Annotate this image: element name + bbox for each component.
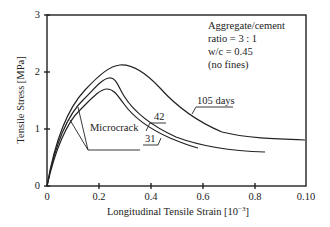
stress-strain-chart: 0 1 2 3 0 0.2 0.4 0.6 0.8 0.10 Tensile S… bbox=[0, 0, 330, 227]
svg-text:3: 3 bbox=[35, 9, 40, 20]
svg-text:(no fines): (no fines) bbox=[208, 59, 249, 71]
svg-text:0.6: 0.6 bbox=[196, 191, 209, 202]
svg-text:1: 1 bbox=[35, 123, 40, 134]
svg-text:0.2: 0.2 bbox=[92, 191, 105, 202]
curve-105-label: 105 days bbox=[197, 95, 235, 106]
x-axis-title: Longitudinal Tensile Strain [10−3] bbox=[107, 205, 249, 217]
curve-31-leader bbox=[158, 138, 161, 145]
svg-text:Aggregate/cement: Aggregate/cement bbox=[208, 20, 285, 31]
svg-text:0.10: 0.10 bbox=[297, 191, 315, 202]
svg-text:ratio = 3 : 1: ratio = 3 : 1 bbox=[208, 33, 257, 44]
y-axis-title: Tensile Stress [MPa] bbox=[15, 56, 26, 143]
svg-text:2: 2 bbox=[35, 66, 40, 77]
curve-105-days bbox=[47, 65, 305, 186]
curve-42-label: 42 bbox=[154, 111, 165, 122]
x-axis-tick-labels: 0 0.2 0.4 0.6 0.8 0.10 bbox=[44, 191, 315, 202]
svg-text:0: 0 bbox=[44, 191, 49, 202]
mix-info-annotation: Aggregate/cement ratio = 3 : 1 w/c = 0.4… bbox=[208, 20, 285, 71]
y-axis-tick-labels: 0 1 2 3 bbox=[35, 9, 40, 191]
svg-text:w/c = 0.45: w/c = 0.45 bbox=[208, 46, 253, 57]
curve-105-leader bbox=[192, 107, 196, 114]
microcrack-label: Microcrack bbox=[90, 122, 139, 133]
svg-text:0.8: 0.8 bbox=[248, 191, 261, 202]
svg-text:0: 0 bbox=[35, 180, 40, 191]
curve-31-label: 31 bbox=[145, 133, 156, 144]
svg-text:0.4: 0.4 bbox=[144, 191, 158, 202]
plot-frame bbox=[47, 15, 306, 186]
